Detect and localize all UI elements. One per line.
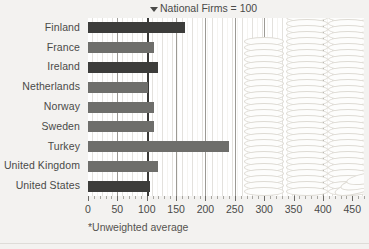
- chart-title-text: National Firms = 100: [160, 2, 257, 14]
- tick-50: [117, 196, 118, 201]
- tick-360: [299, 196, 300, 199]
- tick-120: [158, 196, 159, 199]
- bar-series: [88, 18, 364, 196]
- tick-310: [270, 196, 271, 199]
- tick-90: [141, 196, 142, 199]
- value-label-150: 150: [167, 203, 185, 215]
- category-label-sweden: Sweden: [41, 120, 80, 132]
- value-axis-labels: 050100150200250300350400450: [60, 203, 369, 219]
- tick-280: [252, 196, 253, 199]
- tick-40: [111, 196, 112, 199]
- tick-410: [329, 196, 330, 199]
- value-label-400: 400: [314, 203, 332, 215]
- tick-200: [205, 196, 206, 201]
- down-triangle-icon: [150, 7, 158, 12]
- category-label-france: France: [47, 41, 80, 53]
- bar-norway: [88, 102, 154, 113]
- category-label-united-states: United States: [16, 179, 80, 191]
- tick-80: [135, 196, 136, 199]
- chart-figure: National Firms = 100 FinlandFranceIrelan…: [0, 0, 369, 249]
- tick-250: [235, 196, 236, 201]
- category-label-united-kingdom: United Kingdom: [4, 159, 80, 171]
- category-label-finland: Finland: [45, 21, 80, 33]
- tick-10: [94, 196, 95, 199]
- tick-180: [194, 196, 195, 199]
- tick-130: [164, 196, 165, 199]
- bottom-divider: [0, 243, 369, 244]
- category-label-netherlands: Netherlands: [22, 80, 80, 92]
- tick-290: [258, 196, 259, 199]
- tick-430: [341, 196, 342, 199]
- bar-ireland: [88, 62, 158, 73]
- tick-460: [358, 196, 359, 199]
- tick-380: [311, 196, 312, 199]
- footnote: *Unweighted average: [88, 221, 188, 233]
- tick-270: [247, 196, 248, 199]
- value-label-0: 0: [85, 203, 91, 215]
- tick-450: [352, 196, 353, 201]
- bar-united-kingdom: [88, 161, 158, 172]
- bar-france: [88, 42, 154, 53]
- bar-finland: [88, 22, 185, 33]
- category-label-norway: Norway: [44, 100, 80, 112]
- tick-170: [188, 196, 189, 199]
- value-label-250: 250: [226, 203, 244, 215]
- tick-160: [182, 196, 183, 199]
- tick-0: [88, 196, 89, 201]
- tick-20: [100, 196, 101, 199]
- tick-470: [364, 196, 365, 199]
- tick-240: [229, 196, 230, 199]
- tick-340: [288, 196, 289, 199]
- bar-netherlands: [88, 82, 148, 93]
- tick-210: [211, 196, 212, 199]
- tick-440: [346, 196, 347, 199]
- value-label-50: 50: [112, 203, 124, 215]
- tick-30: [106, 196, 107, 199]
- value-label-200: 200: [197, 203, 215, 215]
- tick-420: [335, 196, 336, 199]
- tick-150: [176, 196, 177, 201]
- tick-400: [323, 196, 324, 201]
- tick-320: [276, 196, 277, 199]
- tick-60: [123, 196, 124, 199]
- category-axis: FinlandFranceIrelandNetherlandsNorwaySwe…: [0, 18, 84, 196]
- tick-190: [200, 196, 201, 199]
- tick-350: [294, 196, 295, 201]
- tick-230: [223, 196, 224, 199]
- tick-140: [170, 196, 171, 199]
- tick-100: [147, 196, 148, 201]
- tick-300: [264, 196, 265, 201]
- tick-110: [153, 196, 154, 199]
- value-label-350: 350: [285, 203, 303, 215]
- chart-title: National Firms = 100: [150, 2, 257, 14]
- value-label-100: 100: [138, 203, 156, 215]
- tick-330: [282, 196, 283, 199]
- category-label-ireland: Ireland: [47, 60, 80, 72]
- bar-turkey: [88, 141, 229, 152]
- tick-390: [317, 196, 318, 199]
- tick-220: [217, 196, 218, 199]
- bar-sweden: [88, 121, 154, 132]
- tick-260: [241, 196, 242, 199]
- plot-area: [88, 18, 364, 196]
- bar-united-states: [88, 181, 150, 192]
- value-label-300: 300: [255, 203, 273, 215]
- category-label-turkey: Turkey: [48, 140, 80, 152]
- value-label-450: 450: [343, 203, 361, 215]
- tick-370: [305, 196, 306, 199]
- tick-70: [129, 196, 130, 199]
